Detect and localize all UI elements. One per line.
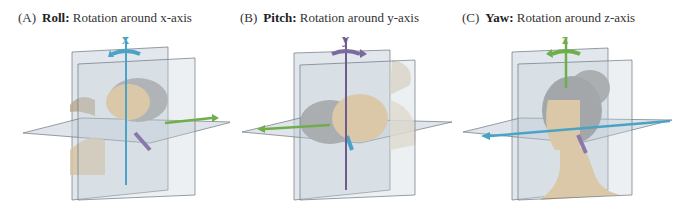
axis-label-z: z [562, 32, 568, 47]
roll-diagram: x [0, 0, 230, 210]
yaw-diagram: z [460, 0, 692, 210]
panel-roll: (A)Roll: Rotation around x-axis x [0, 0, 230, 210]
panel-yaw: (C)Yaw: Rotation around z-axis z [460, 0, 692, 210]
pitch-diagram: y [230, 0, 460, 210]
axis-label-x: x [122, 32, 129, 47]
panel-pitch: (B)Pitch: Rotation around y-axis y [230, 0, 460, 210]
axis-label-y: y [342, 32, 349, 47]
vertical-plane-front [78, 58, 195, 200]
